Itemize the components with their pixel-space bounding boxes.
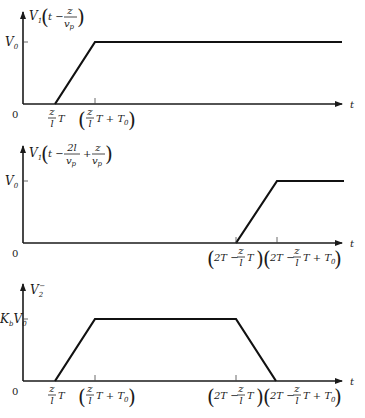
waveform-line <box>236 181 344 243</box>
svg-text:z: z <box>86 383 93 394</box>
svg-text:): ) <box>105 142 113 166</box>
svg-text:T + T0: T + T0 <box>303 252 336 266</box>
y-level-label: V0 <box>5 174 19 190</box>
svg-text:z: z <box>293 245 300 256</box>
waveform-diagram: V1 ( t − z vp ) V0 0 t z l T ( z l T + T… <box>0 0 365 418</box>
x-tick-label-t1: z l T <box>48 106 66 129</box>
svg-text:z: z <box>237 245 244 256</box>
panel-middle: V1 ( t − 2l vp + z vp ) V0 0 t ( 2T − z … <box>5 142 355 271</box>
svg-text:(: ( <box>78 385 86 409</box>
svg-text:z: z <box>94 142 101 153</box>
svg-text:+: + <box>83 148 91 159</box>
x-tick-label-t3: ( 2T − z l T ) <box>207 383 264 409</box>
svg-text:z: z <box>237 383 244 394</box>
origin-label: 0 <box>12 386 18 397</box>
svg-text:t −: t − <box>48 148 64 159</box>
svg-text:l: l <box>88 118 91 129</box>
x-tick-label-t2: ( z l T + T0 ) <box>78 383 136 409</box>
svg-text:2T −: 2T − <box>213 252 239 263</box>
svg-text:T: T <box>58 390 66 401</box>
y-axis-label: V2− <box>30 282 45 299</box>
x-tick-label-t4: ( 2T − z l T + T0 ) <box>263 383 342 409</box>
svg-text:T: T <box>247 252 255 263</box>
origin-label: 0 <box>12 248 18 259</box>
x-axis-label: t <box>350 99 355 110</box>
svg-text:z: z <box>48 106 55 117</box>
svg-text:l: l <box>50 395 53 406</box>
x-axis-label: t <box>350 238 355 249</box>
svg-text:T + T0: T + T0 <box>96 390 129 404</box>
waveform-line <box>55 319 276 381</box>
y-axis-label: V1 ( t − z vp ) <box>29 5 85 31</box>
svg-text:2l: 2l <box>66 142 77 153</box>
svg-text:l: l <box>239 395 242 406</box>
svg-text:vp: vp <box>64 18 75 31</box>
svg-text:z: z <box>48 383 55 394</box>
x-tick-label-t1: z l T <box>48 383 66 406</box>
svg-text:): ) <box>77 5 85 29</box>
svg-text:z: z <box>86 106 93 117</box>
panel-bottom: V2− KbV0 0 t z l T ( z l T + T0 ) ( 2T −… <box>0 282 355 409</box>
origin-label: 0 <box>12 109 18 120</box>
svg-text:T: T <box>58 113 66 124</box>
svg-text:T: T <box>247 390 255 401</box>
svg-text:z: z <box>293 383 300 394</box>
svg-text:l: l <box>295 257 298 268</box>
x-tick-label-t2: ( z l T + T0 ) <box>78 106 136 132</box>
y-axis-label: V1 ( t − 2l vp + z vp ) <box>29 142 113 168</box>
svg-text:): ) <box>334 385 342 409</box>
svg-text:T + T0: T + T0 <box>303 390 336 404</box>
svg-text:z: z <box>66 5 73 16</box>
panel-top: V1 ( t − z vp ) V0 0 t z l T ( z l T + T… <box>5 5 355 132</box>
y-level-label: V0 <box>5 35 19 51</box>
svg-text:l: l <box>295 395 298 406</box>
x-tick-label-t4: ( 2T − z l T + T0 ) <box>263 245 342 271</box>
svg-text:2T −: 2T − <box>213 390 239 401</box>
svg-text:(: ( <box>78 108 86 132</box>
svg-text:T + T0: T + T0 <box>96 113 129 127</box>
svg-text:l: l <box>50 118 53 129</box>
svg-text:): ) <box>128 108 136 132</box>
svg-text:2T −: 2T − <box>269 252 295 263</box>
x-axis-label: t <box>350 376 355 387</box>
svg-text:t −: t − <box>48 11 64 22</box>
svg-text:l: l <box>88 395 91 406</box>
svg-text:): ) <box>334 247 342 271</box>
waveform-line <box>55 42 342 104</box>
svg-text:vp: vp <box>66 155 77 168</box>
svg-text:l: l <box>239 257 242 268</box>
svg-text:vp: vp <box>92 155 103 168</box>
x-tick-label-t3: ( 2T − z l T ) <box>207 245 264 271</box>
svg-text:): ) <box>128 385 136 409</box>
svg-text:2T −: 2T − <box>269 390 295 401</box>
